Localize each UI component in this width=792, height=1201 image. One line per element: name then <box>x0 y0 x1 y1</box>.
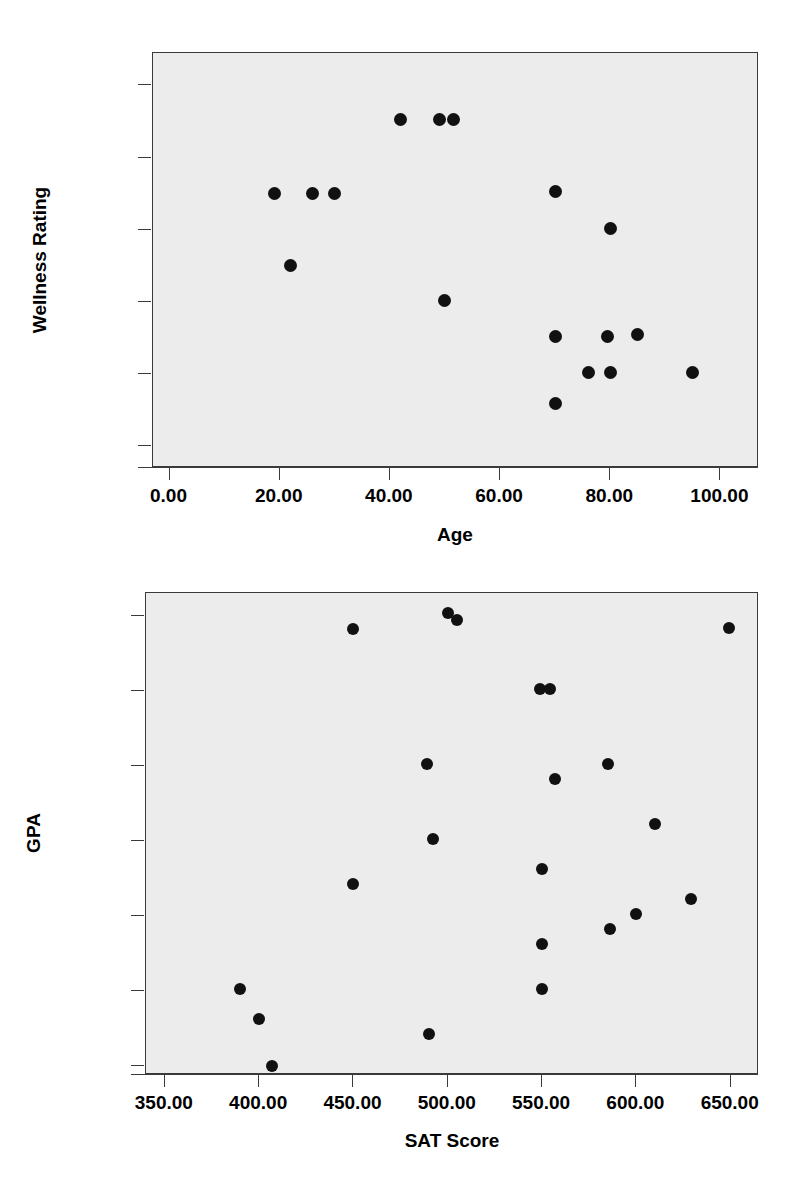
y-axis-tick <box>138 157 151 158</box>
data-point <box>438 294 451 307</box>
data-point <box>347 878 359 890</box>
x-axis-tick-label: 100.00 <box>690 485 748 507</box>
x-axis-tick-label: 350.00 <box>135 1092 193 1114</box>
data-point <box>253 1013 265 1025</box>
data-point <box>549 330 562 343</box>
data-point <box>549 773 561 785</box>
data-point <box>536 938 548 950</box>
y-axis-tick <box>138 301 151 302</box>
y-axis-tick <box>131 840 144 841</box>
y-axis-tick <box>131 1065 144 1066</box>
data-point <box>433 113 446 126</box>
y-axis-tick <box>138 229 151 230</box>
y-axis-tick <box>131 915 144 916</box>
data-point <box>234 983 246 995</box>
y-axis-tick <box>131 690 144 691</box>
data-point <box>421 758 433 770</box>
data-point <box>423 1028 435 1040</box>
data-point <box>604 923 616 935</box>
y-axis-title-gpa: GPA <box>23 813 45 853</box>
y-axis-tick <box>131 615 144 616</box>
x-axis-tick <box>169 467 170 480</box>
y-axis-tick <box>138 373 151 374</box>
data-point <box>630 908 642 920</box>
data-point <box>685 893 697 905</box>
data-point <box>536 983 548 995</box>
y-axis-tick <box>131 990 144 991</box>
data-point <box>306 187 319 200</box>
data-point <box>268 187 281 200</box>
x-axis-tick <box>609 467 610 480</box>
data-point <box>549 185 562 198</box>
x-axis-tick-label: 0.00 <box>150 485 187 507</box>
data-point <box>601 330 614 343</box>
y-axis-tick <box>138 84 151 85</box>
data-point <box>536 863 548 875</box>
data-point <box>544 683 556 695</box>
data-point <box>394 113 407 126</box>
data-point <box>447 113 460 126</box>
x-axis-tick-label: 40.00 <box>365 485 413 507</box>
x-axis-tick <box>499 467 500 480</box>
x-axis-tick-label: 60.00 <box>475 485 523 507</box>
data-point <box>604 222 617 235</box>
x-axis-tick-label: 20.00 <box>255 485 303 507</box>
x-axis-tick <box>352 1074 353 1087</box>
data-point <box>266 1060 278 1072</box>
data-layer-gpa-vs-sat <box>146 593 757 1073</box>
y-axis-title-wellness-rating: Wellness Rating <box>29 187 51 333</box>
x-axis-tick-label: 450.00 <box>323 1092 381 1114</box>
x-axis-tick <box>279 467 280 480</box>
x-axis-tick-label: 600.00 <box>606 1092 664 1114</box>
data-point <box>328 187 341 200</box>
x-axis-tick <box>447 1074 448 1087</box>
plot-area-wellness-vs-age <box>152 52 758 467</box>
y-axis-tick <box>138 445 151 446</box>
x-axis-tick <box>730 1074 731 1087</box>
data-point <box>284 259 297 272</box>
data-point <box>686 366 699 379</box>
x-axis-tick <box>541 1074 542 1087</box>
x-axis-title-age: Age <box>437 524 473 546</box>
data-point <box>631 328 644 341</box>
plot-area-gpa-vs-sat <box>145 592 758 1074</box>
x-axis-baseline <box>131 1074 758 1075</box>
x-axis-tick-label: 400.00 <box>229 1092 287 1114</box>
data-point <box>582 366 595 379</box>
data-point <box>604 366 617 379</box>
x-axis-title-sat-score: SAT Score <box>405 1130 500 1152</box>
x-axis-baseline <box>138 467 758 468</box>
data-layer-wellness-vs-age <box>153 53 757 466</box>
data-point <box>723 622 735 634</box>
x-axis-tick <box>719 467 720 480</box>
x-axis-tick-label: 650.00 <box>701 1092 759 1114</box>
x-axis-tick-label: 80.00 <box>585 485 633 507</box>
scatter-plot-figure: 0.002.004.006.008.0010.000.0020.0040.006… <box>0 0 792 1201</box>
x-axis-tick-label: 550.00 <box>512 1092 570 1114</box>
data-point <box>347 623 359 635</box>
x-axis-tick <box>635 1074 636 1087</box>
data-point <box>649 818 661 830</box>
x-axis-tick <box>389 467 390 480</box>
y-axis-tick <box>131 765 144 766</box>
x-axis-tick-label: 500.00 <box>418 1092 476 1114</box>
data-point <box>549 397 562 410</box>
data-point <box>427 833 439 845</box>
x-axis-tick <box>258 1074 259 1087</box>
data-point <box>602 758 614 770</box>
data-point <box>451 614 463 626</box>
x-axis-tick <box>164 1074 165 1087</box>
